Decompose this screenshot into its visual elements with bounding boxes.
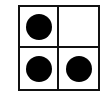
- dot-grid: [18, 5, 100, 91]
- grid-cell-top-left: [20, 7, 59, 48]
- filled-dot-icon: [66, 56, 92, 82]
- filled-dot-icon: [26, 56, 52, 82]
- grid-cell-top-right: [59, 7, 98, 48]
- grid-cell-bottom-right: [59, 48, 98, 89]
- grid-cell-bottom-left: [20, 48, 59, 89]
- filled-dot-icon: [26, 14, 52, 40]
